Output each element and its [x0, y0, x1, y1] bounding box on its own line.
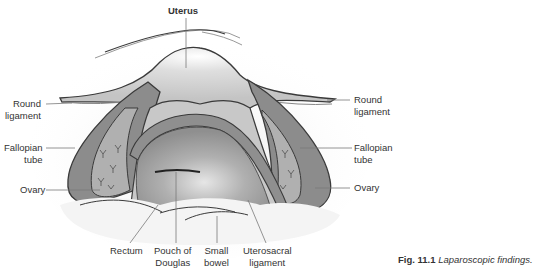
label-uterus: Uterus	[168, 5, 198, 17]
label-ovary-left: Ovary	[20, 184, 45, 196]
label-fallopian-tube-left: Fallopian tube	[4, 142, 43, 166]
label-line-2: bowel	[204, 257, 229, 269]
label-line-2: tube	[4, 154, 43, 166]
label-ovary-right: Ovary	[354, 182, 379, 194]
figure-caption: Fig. 11.1 Laparoscopic findings.	[398, 254, 533, 265]
label-small-bowel: Small bowel	[204, 245, 229, 269]
label-line-2: Douglas	[154, 257, 192, 269]
label-round-ligament-right: Round ligament	[354, 94, 390, 118]
label-line-1: Round	[354, 94, 390, 106]
label-line-1: Round	[5, 98, 41, 110]
label-uterosacral-ligament: Uterosacral ligament	[243, 245, 292, 269]
label-round-ligament-left: Round ligament	[5, 98, 41, 122]
label-line-1: Small	[204, 245, 229, 257]
label-line-1: Pouch of	[154, 245, 192, 257]
figure-number: Fig. 11.1	[398, 254, 436, 265]
label-line-2: tube	[354, 154, 393, 166]
label-fallopian-tube-right: Fallopian tube	[354, 142, 393, 166]
figure-caption-text: Laparoscopic findings.	[438, 254, 533, 265]
label-line-1: Fallopian	[4, 142, 43, 154]
label-line-2: ligament	[5, 110, 41, 122]
label-line-1: Uterosacral	[243, 245, 292, 257]
label-line-2: ligament	[354, 106, 390, 118]
label-rectum: Rectum	[110, 245, 143, 257]
label-line-2: ligament	[243, 257, 292, 269]
label-pouch-of-douglas: Pouch of Douglas	[154, 245, 192, 269]
label-line-1: Fallopian	[354, 142, 393, 154]
